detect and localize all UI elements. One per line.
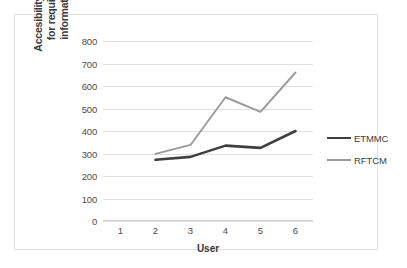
gridline bbox=[103, 221, 313, 222]
series-line-etmmc bbox=[156, 131, 296, 160]
legend-item-rftcm[interactable]: RFTCM bbox=[327, 149, 407, 171]
x-axis-tick-label: 6 bbox=[284, 225, 308, 236]
x-axis-title: User bbox=[103, 243, 313, 254]
y-axis-tick-label: 0 bbox=[67, 216, 97, 227]
legend-swatch-etmmc bbox=[327, 137, 351, 139]
y-axis-tick-labels: 0100200300400500600700800 bbox=[67, 35, 97, 221]
y-axis-tick-label: 200 bbox=[67, 171, 97, 182]
legend-swatch-rftcm bbox=[327, 159, 351, 161]
chart-frame: Accesibility time for required informati… bbox=[14, 14, 378, 250]
x-axis-tick-label: 1 bbox=[109, 225, 133, 236]
x-axis-tick-label: 2 bbox=[144, 225, 168, 236]
y-axis-tick-label: 100 bbox=[67, 193, 97, 204]
y-axis-title-line-3: information bbox=[58, 0, 71, 40]
x-axis-tick-labels: 123456 bbox=[103, 225, 313, 239]
x-axis-tick-label: 5 bbox=[249, 225, 273, 236]
y-axis-tick-label: 400 bbox=[67, 126, 97, 137]
y-axis-tick-label: 300 bbox=[67, 148, 97, 159]
y-axis-tick-label: 500 bbox=[67, 103, 97, 114]
chart-legend: ETMMCRFTCM bbox=[327, 127, 407, 171]
y-axis-tick-label: 600 bbox=[67, 81, 97, 92]
legend-label: RFTCM bbox=[354, 155, 387, 166]
y-axis-title-line-1: Accesibility time bbox=[32, 0, 45, 52]
x-axis-tick-label: 4 bbox=[214, 225, 238, 236]
y-axis-title-line-2: for required bbox=[45, 0, 58, 40]
x-axis-tick-label: 3 bbox=[179, 225, 203, 236]
legend-item-etmmc[interactable]: ETMMC bbox=[327, 127, 407, 149]
y-axis-tick-label: 700 bbox=[67, 58, 97, 69]
plot-area bbox=[103, 41, 313, 221]
legend-label: ETMMC bbox=[354, 133, 388, 144]
series-lines bbox=[103, 41, 313, 221]
y-axis-tick-label: 800 bbox=[67, 36, 97, 47]
